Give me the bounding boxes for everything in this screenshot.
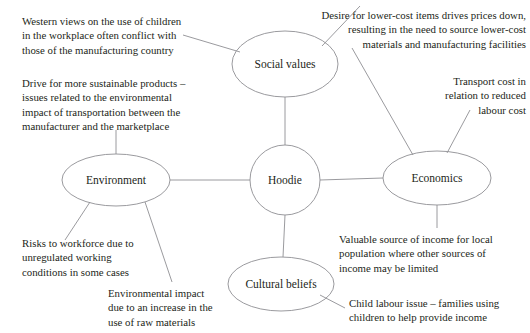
node-shape-hoodie (250, 145, 320, 215)
callout-transport-cost: Transport cost in relation to reduced la… (396, 74, 526, 117)
callout-sustainable-products: Drive for more sustainable products – is… (22, 76, 252, 133)
callout-valuable-income: Valuable source of income for local popu… (339, 232, 529, 275)
link-environment-workforce-risks (65, 202, 90, 240)
link-cultural-beliefs-child-labour (320, 295, 345, 308)
link-hoodie-cultural-beliefs (283, 215, 285, 257)
callout-child-labour: Child labour issue – families using chil… (349, 296, 529, 325)
callout-lower-cost-items: Desire for lower-cost items drives price… (296, 8, 526, 51)
node-shape-economics (383, 151, 491, 205)
callout-workforce-risks: Risks to workforce due to unregulated wo… (22, 236, 182, 279)
callout-raw-materials: Environmental impact due to an increase … (108, 286, 268, 329)
link-hoodie-economics (320, 178, 383, 180)
node-shape-environment (62, 154, 170, 206)
mindmap-diagram: Social values Environment Economics Cult… (0, 0, 530, 333)
callout-western-views: Western views on the use of children in … (22, 14, 250, 57)
